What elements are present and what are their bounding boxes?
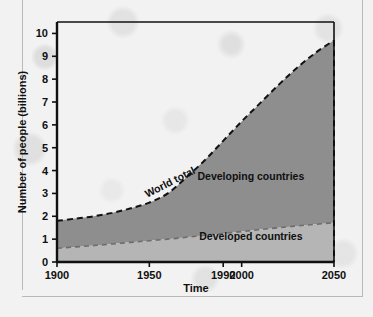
- y-axis-title: Number of people (billions): [16, 70, 28, 213]
- y-tick-label-4: 4: [42, 165, 49, 177]
- x-tick-label-1950: 1950: [137, 269, 161, 281]
- x-tick-label-2050: 2050: [322, 269, 346, 281]
- y-tick-label-2: 2: [42, 210, 48, 222]
- y-tick-label-10: 10: [36, 27, 48, 39]
- band-developing-countries: [57, 40, 334, 248]
- x-axis-title: Time: [183, 282, 208, 294]
- x-tick-label-2000: 2000: [229, 269, 253, 281]
- y-tick-label-8: 8: [42, 73, 48, 85]
- y-tick-label-9: 9: [42, 50, 48, 62]
- y-tick-label-7: 7: [42, 96, 48, 108]
- x-axis-ticks: 19001950199020002050: [45, 262, 346, 281]
- series-label-developed-countries: Developed countries: [199, 230, 302, 242]
- plot-area: [57, 40, 334, 262]
- series-label-developing-countries: Developing countries: [198, 170, 305, 182]
- y-tick-label-5: 5: [42, 142, 48, 154]
- x-tick-label-1900: 1900: [45, 269, 69, 281]
- y-tick-label-3: 3: [42, 187, 48, 199]
- y-tick-label-0: 0: [42, 256, 48, 268]
- figure-page: 012345678910 19001950199020002050 Number…: [0, 0, 373, 317]
- y-tick-label-1: 1: [42, 233, 48, 245]
- y-tick-label-6: 6: [42, 119, 48, 131]
- population-area-chart: 012345678910 19001950199020002050 Number…: [0, 0, 373, 317]
- y-axis-ticks: 012345678910: [36, 27, 57, 268]
